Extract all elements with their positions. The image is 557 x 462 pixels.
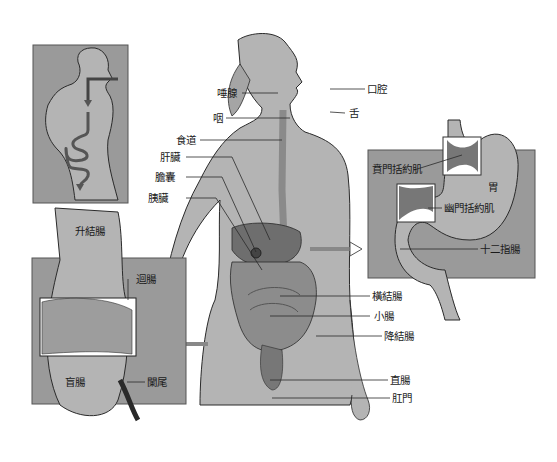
inset-cecum xyxy=(32,208,186,420)
label-anus: 肛門 xyxy=(392,392,412,404)
label-ileum: 迴腸 xyxy=(136,273,156,285)
label-liver: 肝臟 xyxy=(160,151,180,163)
label-pyloric-sphincter: 幽門括約肌 xyxy=(444,202,494,214)
label-descending-colon: 降結腸 xyxy=(384,330,414,342)
label-ascending-colon: 升結腸 xyxy=(75,225,105,237)
inset-digestive-path xyxy=(33,45,128,203)
label-transverse-colon: 橫結腸 xyxy=(372,290,402,302)
label-small-intestine: 小腸 xyxy=(374,310,394,322)
label-pharynx: 咽 xyxy=(213,112,223,124)
label-gallbladder: 膽囊 xyxy=(155,171,175,183)
main-body-figure xyxy=(162,34,370,421)
label-salivary-gland: 唾腺 xyxy=(217,87,237,99)
label-duodenum: 十二指腸 xyxy=(480,243,520,255)
label-pancreas: 胰臟 xyxy=(148,192,168,204)
label-esophagus: 食道 xyxy=(176,134,196,146)
label-oral-cavity: 口腔 xyxy=(367,83,387,95)
label-rectum: 直腸 xyxy=(390,374,410,386)
label-appendix: 闌尾 xyxy=(147,376,167,388)
label-cardiac-sphincter: 賁門括約肌 xyxy=(372,163,422,175)
label-cecum: 盲腸 xyxy=(65,376,85,388)
label-stomach: 胃 xyxy=(488,181,498,193)
label-tongue: 舌 xyxy=(349,107,359,119)
